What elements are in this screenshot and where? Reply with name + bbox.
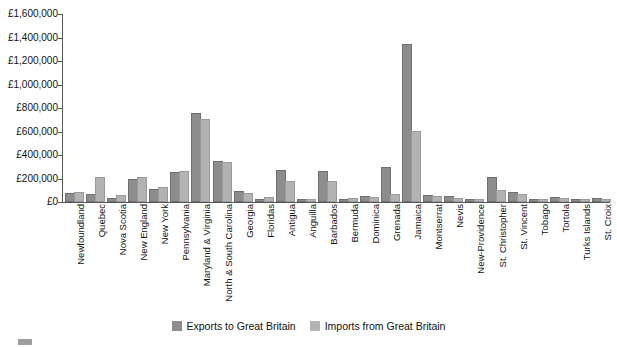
bar-imports	[74, 192, 84, 202]
x-axis-tick-label: Nevis	[455, 204, 465, 228]
legend-swatch-icon	[172, 321, 182, 331]
bar-imports	[411, 131, 421, 202]
x-axis-tick-label: Bermuda	[350, 204, 360, 243]
bar-group	[421, 14, 442, 202]
bar-group	[400, 14, 421, 202]
bar-group	[189, 14, 210, 202]
bar-imports	[601, 199, 611, 202]
bar-group	[168, 14, 189, 202]
bar-group	[527, 14, 548, 202]
x-axis-tick-label: Turks Islands	[582, 204, 592, 260]
bar-imports	[285, 181, 295, 202]
bar-group	[379, 14, 400, 202]
bar-group	[147, 14, 168, 202]
legend-label-imports: Imports from Great Britain	[325, 320, 446, 332]
y-axis-tick-mark	[58, 38, 62, 39]
bar-group	[316, 14, 337, 202]
bar-group	[358, 14, 379, 202]
y-axis-tick-mark	[58, 14, 62, 15]
x-axis-tick-label: Jamaica	[413, 204, 423, 239]
y-axis-tick-mark	[58, 132, 62, 133]
bar-imports	[474, 199, 484, 202]
y-axis-tick-mark	[58, 155, 62, 156]
bar-imports	[369, 197, 379, 202]
bar-imports	[348, 198, 358, 202]
bar-group	[211, 14, 232, 202]
x-axis-tick-label: Pennsylvania	[181, 204, 191, 261]
y-axis-tick-label: £800,000	[16, 103, 58, 113]
bar-imports	[95, 177, 105, 203]
bar-group	[337, 14, 358, 202]
bar-group	[253, 14, 274, 202]
x-axis-tick-label: Grenada	[392, 204, 402, 241]
y-axis-tick-label: £1,400,000	[8, 33, 58, 43]
bar-group	[63, 14, 84, 202]
x-axis-tick-label: Nova Scotia	[118, 204, 128, 255]
bar-imports	[432, 196, 442, 202]
y-axis-tick-label: £1,600,000	[8, 9, 58, 19]
y-axis-tick-label: £600,000	[16, 127, 58, 137]
x-axis-tick-label: New England	[139, 204, 149, 261]
x-axis-tick-label: Newfoundland	[76, 204, 86, 265]
x-axis-tick-label: Tobago	[540, 204, 550, 235]
bar-group	[84, 14, 105, 202]
x-axis-tick-label: Antigua	[287, 204, 297, 236]
bar-imports	[559, 198, 569, 202]
bar-group	[485, 14, 506, 202]
x-axis-tick-label: Dominica	[371, 204, 381, 244]
bar-group	[463, 14, 484, 202]
bar-group	[590, 14, 611, 202]
bar-group	[569, 14, 590, 202]
bar-imports	[116, 195, 126, 202]
x-axis-tick-label: St. Vincent	[519, 204, 529, 250]
bar-group	[274, 14, 295, 202]
y-axis-tick-mark	[58, 179, 62, 180]
bar-group	[506, 14, 527, 202]
legend-swatch-icon	[310, 321, 320, 331]
chart-legend: Exports to Great Britain Imports from Gr…	[0, 320, 617, 332]
x-axis-tick-label: Anguilla	[308, 204, 318, 238]
bar-imports	[453, 198, 463, 202]
x-axis-tick-label: Floridas	[266, 204, 276, 238]
page-edge-marker	[18, 339, 32, 345]
bar-chart: £1,600,000£1,400,000£1,200,000£1,000,000…	[0, 0, 617, 347]
y-axis-tick-mark	[58, 108, 62, 109]
plot-area	[62, 14, 610, 202]
bar-imports	[580, 199, 590, 202]
x-axis-tick-label: Barbados	[329, 204, 339, 245]
y-axis-tick-label: £200,000	[16, 174, 58, 184]
x-axis-tick-label: Tortola	[561, 204, 571, 233]
x-axis: NewfoundlandQuebecNova ScotiaNew England…	[62, 204, 610, 314]
bar-group	[295, 14, 316, 202]
y-axis-tick-label: £1,200,000	[8, 56, 58, 66]
bar-group	[105, 14, 126, 202]
bar-imports	[243, 193, 253, 202]
bar-group	[232, 14, 253, 202]
bar-imports	[390, 194, 400, 202]
x-axis-tick-label: Maryland & Virginia	[202, 204, 212, 286]
bar-group	[442, 14, 463, 202]
y-axis-tick-mark	[58, 202, 62, 203]
bar-imports	[327, 181, 337, 202]
x-axis-tick-label: New York	[160, 204, 170, 244]
y-axis-tick-label: £1,000,000	[8, 80, 58, 90]
bar-imports	[517, 194, 527, 202]
y-axis-tick-label: £400,000	[16, 150, 58, 160]
x-axis-tick-label: North & South Carolina	[224, 204, 234, 302]
x-axis-tick-label: Quebec	[97, 204, 107, 237]
bar-imports	[496, 190, 506, 202]
bar-imports	[538, 199, 548, 202]
x-axis-tick-label: Montserrat	[434, 204, 444, 249]
bar-imports	[264, 197, 274, 202]
x-axis-tick-label: Georgia	[245, 204, 255, 238]
y-axis-tick-mark	[58, 61, 62, 62]
legend-item-exports: Exports to Great Britain	[172, 320, 296, 332]
bar-group	[548, 14, 569, 202]
y-axis-tick-mark	[58, 85, 62, 86]
y-axis-tick-label: £0	[47, 197, 58, 207]
bar-group	[126, 14, 147, 202]
bars-layer	[62, 14, 610, 202]
x-axis-tick-label: St. Croix	[603, 204, 613, 240]
x-axis-tick-label: St. Christopher	[498, 204, 508, 267]
bar-imports	[306, 199, 316, 202]
